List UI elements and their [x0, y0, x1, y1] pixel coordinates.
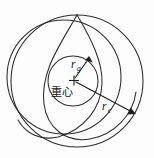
inner-radius-label: r	[71, 58, 76, 70]
figure-container: r g r c 重心	[0, 0, 154, 158]
outer-radius-arrowhead	[128, 108, 137, 115]
centroid-label: 重心	[51, 85, 73, 99]
rotor-diagram-svg: r g r c 重心	[0, 0, 154, 158]
inner-radius-subscript: g	[77, 64, 81, 73]
outer-radius-label: r	[102, 100, 107, 112]
outer-radius-subscript: c	[108, 106, 112, 115]
rotor-lobe-curve-left	[43, 15, 136, 140]
centroid-cross-icon	[69, 76, 79, 86]
